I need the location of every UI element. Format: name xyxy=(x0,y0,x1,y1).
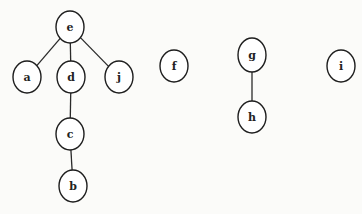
node-j: j xyxy=(105,61,133,93)
node-label: d xyxy=(67,71,75,84)
edge-e-a xyxy=(37,38,60,65)
node-b: b xyxy=(59,170,87,202)
node-i: i xyxy=(327,50,355,82)
nodes-group: eadjcbfghi xyxy=(13,11,355,202)
edge-c-b xyxy=(71,150,72,170)
node-label: j xyxy=(116,71,121,84)
node-d: d xyxy=(57,61,85,93)
node-label: a xyxy=(23,71,30,84)
tree-forest-diagram: eadjcbfghi xyxy=(0,0,362,214)
node-label: h xyxy=(248,111,256,124)
node-f: f xyxy=(160,50,188,82)
node-e: e xyxy=(56,11,84,43)
node-label: e xyxy=(67,21,74,34)
node-label: g xyxy=(248,49,256,62)
node-a: a xyxy=(13,61,41,93)
node-label: b xyxy=(69,180,77,193)
node-c: c xyxy=(56,118,84,150)
edge-e-j xyxy=(80,38,108,67)
node-label: i xyxy=(339,60,343,73)
node-label: c xyxy=(67,128,74,141)
node-g: g xyxy=(238,38,266,72)
node-h: h xyxy=(238,101,266,133)
